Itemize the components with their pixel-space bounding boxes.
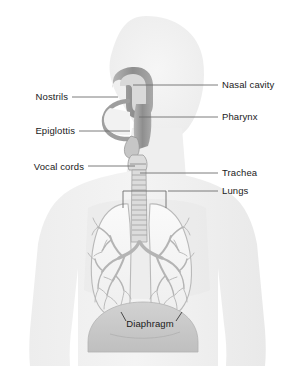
label-nostrils: Nostrils: [36, 91, 69, 102]
label-pharynx: Pharynx: [222, 111, 258, 122]
label-trachea: Trachea: [222, 167, 258, 178]
label-vocal-cords: Vocal cords: [34, 161, 84, 172]
respiratory-system-diagram: Nostrils Epiglottis Vocal cords Nasal ca…: [0, 0, 293, 366]
label-epiglottis: Epiglottis: [35, 125, 75, 136]
label-diaphragm: Diaphragm: [126, 318, 173, 329]
label-lungs: Lungs: [222, 185, 249, 196]
larynx-vocal-cords: [128, 155, 147, 170]
trachea: [131, 170, 147, 242]
diagram-canvas: Nostrils Epiglottis Vocal cords Nasal ca…: [0, 0, 293, 366]
label-nasal-cavity: Nasal cavity: [222, 79, 275, 90]
